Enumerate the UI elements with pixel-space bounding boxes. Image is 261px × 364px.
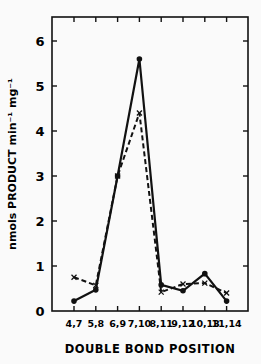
x-tick-label: 4,7 <box>66 318 83 329</box>
y-tick-label: 0 <box>35 304 44 319</box>
data-series <box>71 56 229 304</box>
y-tick-label: 4 <box>35 124 44 139</box>
x-axis-label: DOUBLE BOND POSITION <box>65 342 236 356</box>
dot-marker <box>202 271 208 277</box>
y-tick-label: 1 <box>35 259 44 274</box>
x-tick-label: 8,11 <box>149 318 172 329</box>
x-tick-label: 6,9 <box>109 318 126 329</box>
x-tick-label: 5,8 <box>87 318 104 329</box>
dot-marker <box>180 288 186 294</box>
y-tick-label: 2 <box>35 214 44 229</box>
y-tick-label: 3 <box>35 169 44 184</box>
dot-marker <box>224 298 230 304</box>
dot-marker <box>71 298 77 304</box>
y-tick-label: 6 <box>35 34 44 49</box>
series-line-solid <box>74 59 227 301</box>
y-axis-label: nmols PRODUCT min⁻¹ mg⁻¹ <box>6 78 19 250</box>
x-tick-label: 7,10 <box>128 318 152 329</box>
line-chart: 0123456 4,75,86,97,108,119,1210,1311,14 … <box>0 0 261 364</box>
dot-marker <box>137 56 143 62</box>
series-line-dashed <box>74 113 227 293</box>
x-axis-ticks: 4,75,86,97,108,119,1210,1311,14 <box>66 17 242 329</box>
x-tick-label: 11,14 <box>212 318 242 329</box>
y-tick-label: 5 <box>35 79 44 94</box>
